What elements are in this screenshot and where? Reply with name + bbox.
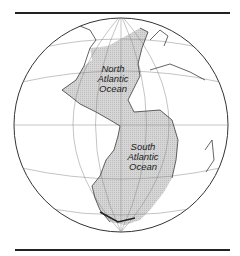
label-south-atlantic: South Atlantic Ocean <box>118 142 168 172</box>
globe-map <box>0 0 240 256</box>
label-north-atlantic: North Atlantic Ocean <box>88 64 138 94</box>
